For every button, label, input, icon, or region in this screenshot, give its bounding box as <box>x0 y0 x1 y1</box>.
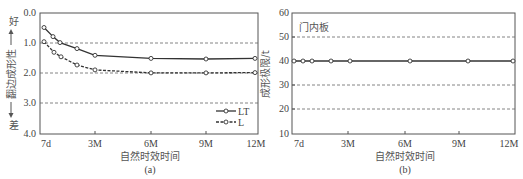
arrow-up-icon <box>9 29 14 45</box>
y-tick-label: 60 <box>279 7 289 18</box>
y-label-good: 好 <box>9 16 19 27</box>
y-tick-label: 1.0 <box>24 37 37 48</box>
legend: LT L <box>216 106 249 128</box>
chart-a: 0.0 1.0 2.0 3.0 4.0 7d 3M 6M 9M 12M 自然时效… <box>5 7 266 176</box>
x-tick-label: 12M <box>247 138 266 149</box>
y-tick-label: 3.0 <box>24 97 37 108</box>
caption-b: (b) <box>399 164 411 176</box>
x-tick-label: 9M <box>199 138 213 149</box>
y-tick-label: 10 <box>279 128 289 139</box>
x-axis-label: 自然时效时间 <box>375 150 435 162</box>
x-tick-label: 12M <box>500 138 519 149</box>
x-axis-label: 自然时效时间 <box>120 150 180 162</box>
y-tick-label: 2.0 <box>24 67 37 78</box>
x-tick-label: 9M <box>452 138 466 149</box>
legend-lt: LT <box>238 106 249 117</box>
x-tick-label: 6M <box>398 138 412 149</box>
y-axis-label: 成形极限/t <box>259 50 271 97</box>
y-tick-label: 40 <box>279 55 289 66</box>
x-tick-label: 7d <box>294 138 304 149</box>
y-label-bad: 差 <box>9 119 19 131</box>
y-axis-label: 翻边成形性 <box>5 49 17 99</box>
chart-b: 60 50 40 30 20 10 7d 3M 6M 9M 12M 自然时效时间… <box>259 7 519 176</box>
x-tick-label: 3M <box>88 138 102 149</box>
legend-l: L <box>238 117 244 128</box>
x-tick-label: 6M <box>144 138 158 149</box>
caption-a: (a) <box>144 164 155 176</box>
arrow-down-icon <box>9 102 14 118</box>
x-tick-label: 3M <box>341 138 355 149</box>
figure: 0.0 1.0 2.0 3.0 4.0 7d 3M 6M 9M 12M 自然时效… <box>0 0 523 179</box>
chart-b-title: 门内板 <box>299 21 329 33</box>
y-tick-label: 0.0 <box>24 7 37 18</box>
x-tick-label: 7d <box>41 138 51 149</box>
y-tick-label: 4.0 <box>24 128 37 139</box>
y-tick-label: 20 <box>279 103 289 114</box>
y-tick-label: 50 <box>279 31 289 42</box>
y-tick-label: 30 <box>279 79 289 90</box>
series-lt-markers <box>42 26 257 62</box>
